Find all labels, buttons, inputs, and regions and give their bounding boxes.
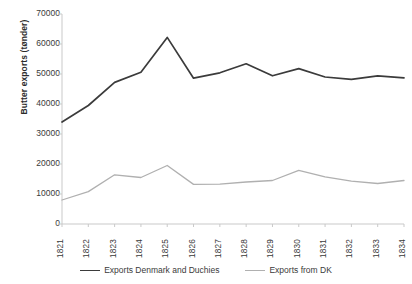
series-line-1	[62, 166, 404, 201]
x-tick-label: 1830	[293, 239, 305, 258]
legend-label-series-1: Exports from DK	[269, 265, 331, 275]
x-tick-label: 1822	[82, 239, 94, 258]
x-tick-label: 1827	[214, 239, 226, 258]
x-tick-label: 1823	[109, 239, 121, 258]
chart-legend: Exports Denmark and Duchies Exports from…	[0, 262, 412, 278]
legend-item-exports-from-dk[interactable]: Exports from DK	[245, 265, 331, 275]
legend-item-exports-denmark-and-duchies[interactable]: Exports Denmark and Duchies	[80, 265, 219, 275]
x-tick-label: 1825	[161, 239, 173, 258]
chart-series-lines	[62, 37, 404, 200]
x-tick-label: 1833	[372, 239, 384, 258]
x-tick-label: 1832	[345, 239, 357, 258]
x-axis-tick-labels: 1821182218231824182518261827182818291830…	[0, 228, 412, 258]
x-tick-label: 1829	[266, 239, 278, 258]
x-tick-label: 1824	[135, 239, 147, 258]
x-tick-label: 1831	[319, 239, 331, 258]
chart-container: Butter exports (tønder) 7000060000500004…	[0, 0, 412, 284]
legend-label-series-0: Exports Denmark and Duchies	[104, 265, 219, 275]
x-tick-label: 1828	[240, 239, 252, 258]
legend-line-icon-series-1	[245, 270, 265, 271]
x-tick-label: 1821	[56, 239, 68, 258]
series-line-0	[62, 37, 404, 122]
x-tick-label: 1826	[188, 239, 200, 258]
axis-lines	[62, 14, 404, 224]
legend-line-icon-series-0	[80, 270, 100, 271]
x-tick-label: 1834	[398, 239, 410, 258]
